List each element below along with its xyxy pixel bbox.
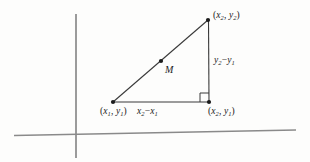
distance-formula-figure: (x2, y2) (x1, y1) (x2, y1) x2−x1 y2−y1 M [0,0,310,162]
midpoint-label: M [165,65,173,75]
point-label-bottom-left: (x1, y1) [100,107,127,117]
paren-close: ) [232,106,235,116]
x-variable: x [216,10,220,20]
x-subscript: 2 [216,110,219,117]
x-axis [14,130,296,136]
point-label-top-right: (x2, y2) [213,11,240,21]
diagram-canvas [0,0,310,162]
vertex-point-top-right [206,18,210,22]
x-subscript: 2 [221,14,224,21]
second-subscript: 1 [231,59,234,66]
vertical-leg-label: y2−y1 [214,56,235,66]
midpoint-dot [159,59,163,63]
first-subscript: 2 [218,59,221,66]
triangle-vertical-leg [209,20,210,102]
paren-close: ) [124,106,127,116]
x-variable: x [211,106,215,116]
x-variable: x [103,106,107,116]
second-subscript: 1 [154,110,157,117]
vertex-point-bottom-right [207,100,211,104]
vertex-point-bottom-left [111,100,115,104]
y-subscript: 2 [233,14,236,21]
y-subscript: 1 [228,110,231,117]
first-subscript: 2 [141,110,144,117]
horizontal-leg-label: x2−x1 [137,107,158,117]
x-subscript: 1 [108,110,111,117]
point-label-bottom-right: (x2, y1) [208,107,235,117]
y-subscript: 1 [120,110,123,117]
paren-close: ) [237,10,240,20]
